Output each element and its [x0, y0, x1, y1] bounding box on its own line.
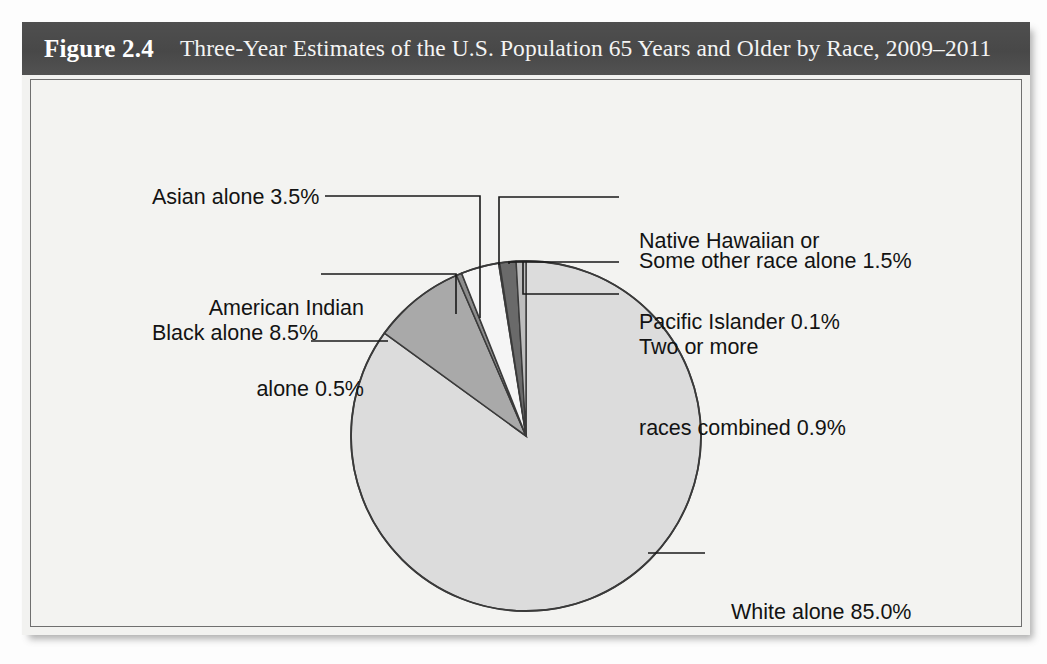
figure-panel: Asian alone 3.5% American Indian alone 0…	[30, 79, 1022, 627]
figure-caption: Three-Year Estimates of the U.S. Populat…	[180, 35, 992, 62]
pie-label-american-indian-alone: American Indian alone 0.5%	[152, 241, 364, 457]
pie-label-black-alone: Black alone 8.5%	[152, 320, 318, 347]
pie-label-white-alone: White alone 85.0%	[731, 599, 911, 626]
figure-title-bar: Figure 2.4 Three-Year Estimates of the U…	[22, 22, 1030, 75]
pie-label-two-or-more-line1: Two or more	[639, 334, 846, 361]
figure-number: Figure 2.4	[44, 35, 154, 63]
pie-chart: Asian alone 3.5% American Indian alone 0…	[31, 80, 1021, 626]
figure-page: Figure 2.4 Three-Year Estimates of the U…	[0, 0, 1047, 664]
pie-label-american-indian-line2: alone 0.5%	[152, 376, 364, 403]
figure-box: Figure 2.4 Three-Year Estimates of the U…	[22, 22, 1030, 635]
leader-line-native-hawaiian-pacific-islander	[499, 197, 619, 265]
pie-label-asian-alone: Asian alone 3.5%	[152, 184, 319, 211]
pie-label-american-indian-line1: American Indian	[152, 295, 364, 322]
pie-label-some-other-race-alone: Some other race alone 1.5%	[639, 248, 912, 275]
pie-label-two-or-more-line2: races combined 0.9%	[639, 415, 846, 442]
pie-label-two-or-more-races-combined: Two or more races combined 0.9%	[639, 280, 846, 496]
